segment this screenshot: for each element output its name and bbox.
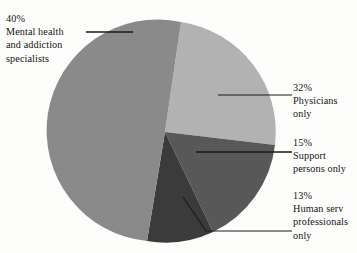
pie-label-support-persons-line2: persons only bbox=[293, 162, 346, 175]
pie-label-physicians: 32% Physicians only bbox=[293, 81, 338, 121]
pie-chart-figure: 40% Mental health and addiction speciali… bbox=[0, 0, 357, 253]
pie-label-human-services-percent: 13% bbox=[293, 189, 348, 202]
pie-label-human-services: 13% Human serv professionals only bbox=[293, 189, 348, 242]
pie-label-mental-health: 40% Mental health and addiction speciali… bbox=[6, 12, 64, 65]
pie-label-human-services-line3: only bbox=[293, 229, 348, 242]
pie-label-physicians-line2: only bbox=[293, 107, 338, 120]
pie-label-physicians-line1: Physicians bbox=[293, 94, 338, 107]
pie-label-support-persons-percent: 15% bbox=[293, 136, 346, 149]
pie-label-support-persons: 15% Support persons only bbox=[293, 136, 346, 176]
pie-label-mental-health-line3: specialists bbox=[6, 52, 64, 65]
pie-label-support-persons-line1: Support bbox=[293, 149, 346, 162]
pie-label-mental-health-line1: Mental health bbox=[6, 25, 64, 38]
pie-slice-physicians[interactable] bbox=[165, 22, 276, 145]
pie-label-human-services-line1: Human serv bbox=[293, 202, 348, 215]
pie-label-physicians-percent: 32% bbox=[293, 81, 338, 94]
pie-label-human-services-line2: professionals bbox=[293, 215, 348, 228]
pie-label-mental-health-percent: 40% bbox=[6, 12, 64, 25]
pie-label-mental-health-line2: and addiction bbox=[6, 38, 64, 51]
